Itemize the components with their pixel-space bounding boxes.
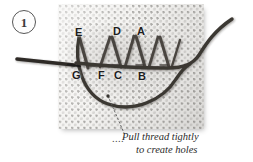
figure-caption: Pull thread tightly to create holes [122, 131, 250, 156]
caption-line-1: Pull thread tightly [122, 131, 199, 142]
caption-leader-anchor-dot [106, 94, 109, 97]
stitch-label-A: A [137, 26, 145, 37]
step-number-badge: 1 [12, 10, 36, 34]
stitch-group [17, 19, 232, 107]
working-thread [76, 19, 232, 68]
needle-shaft [17, 59, 74, 65]
stitch-label-F: F [98, 70, 105, 81]
caption-leader-line [108, 96, 124, 133]
caption-line-2: to create holes [122, 144, 250, 157]
stitch-label-G: G [72, 70, 81, 81]
hemstitch-step-figure: 1 E D A G F C B .... Pull thread tightly… [0, 0, 253, 162]
stitch-label-E: E [75, 27, 82, 38]
thread-slack-loop [78, 37, 190, 107]
stitch-label-C: C [114, 70, 122, 81]
stitch-label-D: D [113, 26, 121, 37]
step-number-value: 1 [21, 16, 28, 29]
stitch-label-B: B [138, 71, 146, 82]
